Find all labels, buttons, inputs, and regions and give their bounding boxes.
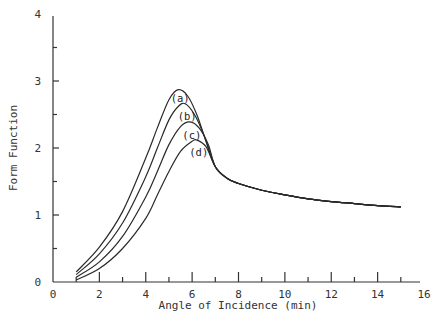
y-tick-label: 2 — [34, 142, 41, 155]
x-tick-label: 2 — [96, 288, 103, 301]
curve-label-a: (a) — [171, 92, 190, 104]
y-tick-label: 1 — [34, 209, 41, 222]
y-tick-label: 3 — [34, 75, 41, 88]
curve-c — [76, 122, 401, 277]
curve-labels: (a)(b)(c)(d) — [171, 92, 209, 158]
curve-d — [76, 139, 401, 280]
chart: 024681012141601234 (a)(b)(c)(d) Angle of… — [0, 0, 439, 324]
curve-label-d: (d) — [189, 146, 208, 158]
curve-b — [76, 103, 401, 274]
x-tick-label: 4 — [142, 288, 149, 301]
curve-label-c: (c) — [182, 129, 201, 141]
x-tick-label: 0 — [50, 288, 57, 301]
x-tick-label: 16 — [417, 288, 430, 301]
x-tick-label: 14 — [371, 288, 385, 301]
axes: 024681012141601234 — [34, 8, 430, 301]
x-axis-label: Angle of Incidence (min) — [159, 299, 318, 312]
y-axis-label: Form Function — [7, 105, 20, 191]
y-tick-label: 4 — [34, 8, 41, 21]
curve-a — [76, 90, 401, 272]
curve-label-b: (b) — [178, 110, 197, 122]
curves — [76, 90, 401, 280]
x-tick-label: 12 — [325, 288, 338, 301]
y-tick-label: 0 — [34, 276, 41, 289]
